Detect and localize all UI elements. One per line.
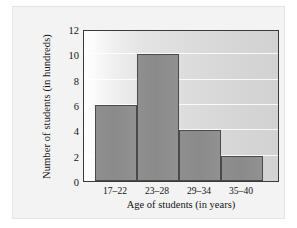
x-tick-label: 23–28	[145, 185, 169, 196]
y-tick-label: 8	[74, 75, 79, 86]
y-tick-label: 6	[74, 101, 79, 112]
figure: Number of students (in hundreds) 0246810…	[0, 0, 297, 228]
x-tick-label: 35–40	[229, 185, 253, 196]
y-tick-label: 10	[69, 50, 80, 61]
gridline	[84, 79, 278, 80]
x-tick-label: 29–34	[187, 185, 211, 196]
bar-35–40	[221, 156, 263, 181]
bar-29–34	[179, 130, 221, 181]
y-tick-label: 2	[74, 151, 79, 162]
y-axis-title: Number of students (in hundreds)	[41, 27, 52, 187]
bar-23–28	[137, 54, 179, 181]
bar-17–22	[95, 105, 137, 181]
y-tick-label: 0	[74, 177, 79, 188]
figure-frame: Number of students (in hundreds) 0246810…	[12, 6, 285, 219]
y-tick-label: 4	[74, 126, 79, 137]
x-tick-label: 17–22	[103, 185, 127, 196]
gridline	[84, 53, 278, 54]
plot-area	[83, 30, 279, 182]
y-tick-label: 12	[69, 25, 80, 36]
x-axis-title: Age of students (in years)	[83, 199, 279, 210]
